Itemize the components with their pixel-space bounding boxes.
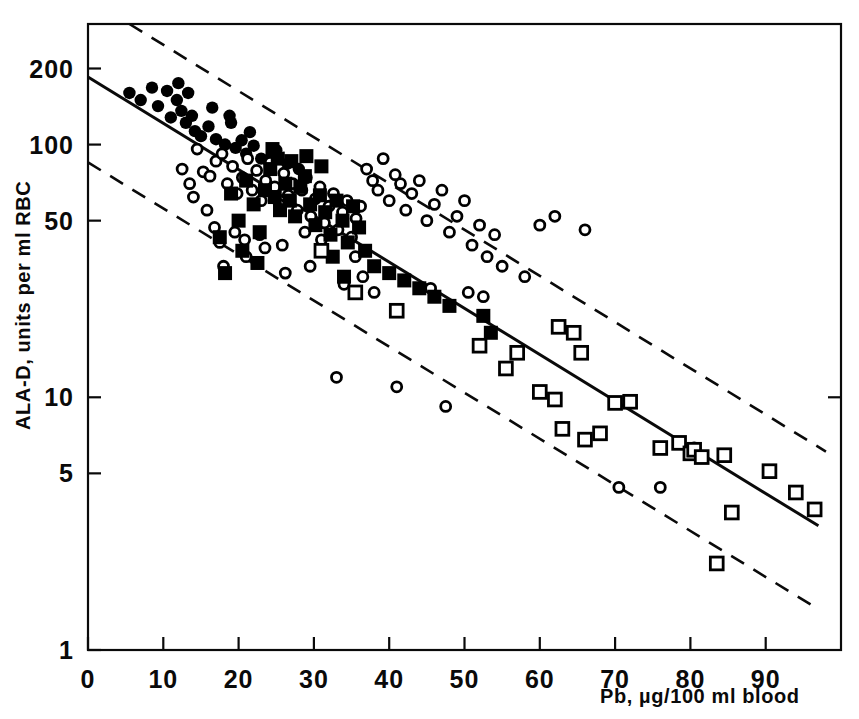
data-point-filled-square bbox=[476, 309, 490, 323]
data-point-open-circle bbox=[395, 179, 405, 189]
data-point-open-circle bbox=[478, 292, 488, 302]
data-point-open-circle bbox=[614, 482, 624, 492]
data-point-filled-square bbox=[218, 266, 232, 280]
data-point-filled-square bbox=[352, 220, 366, 234]
y-tick-label: 200 bbox=[29, 55, 74, 83]
data-point-filled-square bbox=[250, 256, 264, 270]
data-point-filled-circle bbox=[206, 101, 218, 113]
data-point-open-circle bbox=[230, 227, 240, 237]
data-point-open-circle bbox=[378, 154, 388, 164]
data-point-filled-square bbox=[268, 190, 282, 204]
data-point-open-circle bbox=[384, 196, 394, 206]
data-point-open-circle bbox=[497, 261, 507, 271]
data-point-open-square bbox=[725, 506, 738, 519]
data-point-filled-square bbox=[288, 209, 302, 223]
data-point-open-circle bbox=[305, 261, 315, 271]
data-point-open-square bbox=[654, 442, 667, 455]
y-tick-label: 1 bbox=[59, 636, 74, 664]
data-point-open-circle bbox=[407, 189, 417, 199]
data-point-open-circle bbox=[373, 185, 383, 195]
data-point-open-circle bbox=[185, 179, 195, 189]
data-point-filled-square bbox=[224, 187, 238, 201]
x-axis-title: Pb, µg/100 ml blood bbox=[600, 685, 800, 707]
data-point-open-circle bbox=[467, 240, 477, 250]
data-point-filled-circle bbox=[195, 130, 207, 142]
y-tick-label: 5 bbox=[59, 459, 74, 487]
data-point-filled-circle bbox=[223, 110, 235, 122]
data-point-open-square bbox=[789, 486, 802, 499]
data-point-open-circle bbox=[580, 225, 590, 235]
data-point-open-square bbox=[695, 451, 708, 464]
data-point-open-circle bbox=[217, 149, 227, 159]
data-point-filled-square bbox=[313, 188, 327, 202]
data-point-open-square bbox=[763, 465, 776, 478]
data-point-open-circle bbox=[444, 227, 454, 237]
data-point-open-circle bbox=[177, 164, 187, 174]
data-point-open-circle bbox=[228, 161, 238, 171]
y-axis-title: ALA-D, units per ml RBC bbox=[12, 181, 34, 430]
y-tick-labels: 151050100200 bbox=[29, 55, 74, 664]
data-point-filled-circle bbox=[152, 100, 164, 112]
data-point-filled-square bbox=[298, 169, 312, 183]
data-point-open-square bbox=[500, 362, 513, 375]
data-point-open-circle bbox=[280, 268, 290, 278]
data-point-filled-circle bbox=[172, 77, 184, 89]
data-point-open-circle bbox=[240, 235, 250, 245]
data-point-open-circle bbox=[401, 205, 411, 215]
data-point-open-circle bbox=[358, 272, 368, 282]
data-point-open-circle bbox=[277, 240, 287, 250]
data-point-open-circle bbox=[655, 482, 665, 492]
data-point-filled-square bbox=[314, 159, 328, 173]
data-point-open-circle bbox=[205, 171, 215, 181]
data-point-filled-circle bbox=[186, 110, 198, 122]
data-point-open-square bbox=[556, 422, 569, 435]
data-point-filled-square bbox=[299, 149, 313, 163]
data-point-open-square bbox=[567, 326, 580, 339]
x-tick-label: 40 bbox=[374, 665, 404, 693]
x-tick-label: 30 bbox=[299, 665, 329, 693]
data-point-open-circle bbox=[452, 211, 462, 221]
data-point-filled-square bbox=[382, 266, 396, 280]
data-point-open-square bbox=[511, 346, 524, 359]
data-point-filled-circle bbox=[171, 94, 183, 106]
data-point-open-circle bbox=[490, 230, 500, 240]
data-point-filled-square bbox=[284, 154, 298, 168]
data-point-filled-square bbox=[412, 281, 426, 295]
data-point-filled-circle bbox=[182, 87, 194, 99]
data-point-open-circle bbox=[520, 272, 530, 282]
data-point-open-square bbox=[552, 320, 565, 333]
data-point-open-circle bbox=[188, 192, 198, 202]
data-point-open-square bbox=[390, 304, 403, 317]
data-point-open-circle bbox=[482, 252, 492, 262]
data-point-open-square bbox=[624, 395, 637, 408]
data-point-open-circle bbox=[243, 154, 253, 164]
x-tick-label: 50 bbox=[450, 665, 480, 693]
data-point-open-circle bbox=[460, 196, 470, 206]
data-point-filled-square bbox=[329, 194, 343, 208]
data-point-filled-square bbox=[232, 214, 246, 228]
data-point-open-circle bbox=[441, 401, 451, 411]
x-tick-label: 20 bbox=[224, 665, 254, 693]
data-point-open-square bbox=[533, 386, 546, 399]
data-point-filled-square bbox=[239, 174, 253, 188]
x-tick-label: 10 bbox=[148, 665, 178, 693]
data-point-open-square bbox=[473, 339, 486, 352]
data-point-filled-circle bbox=[175, 105, 187, 117]
data-point-open-circle bbox=[300, 227, 310, 237]
data-point-filled-square bbox=[235, 244, 249, 258]
data-point-filled-square bbox=[341, 235, 355, 249]
data-point-open-circle bbox=[437, 185, 447, 195]
data-point-open-circle bbox=[362, 164, 372, 174]
data-point-open-circle bbox=[475, 220, 485, 230]
data-point-open-square bbox=[609, 397, 622, 410]
data-point-open-circle bbox=[392, 382, 402, 392]
data-point-filled-circle bbox=[135, 94, 147, 106]
data-point-open-circle bbox=[429, 199, 439, 209]
data-point-open-square bbox=[575, 346, 588, 359]
data-point-filled-circle bbox=[247, 139, 259, 151]
data-point-filled-square bbox=[427, 290, 441, 304]
data-point-open-circle bbox=[252, 165, 262, 175]
data-point-open-circle bbox=[463, 287, 473, 297]
data-point-filled-square bbox=[336, 214, 350, 228]
data-point-filled-square bbox=[442, 299, 456, 313]
